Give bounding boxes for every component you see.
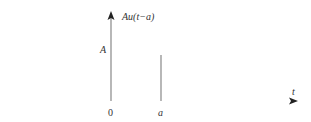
step-function-diagram: Au(t−a) A 0 a t <box>0 0 311 122</box>
function-label: Au(t−a) <box>121 11 155 23</box>
tick-label-origin: 0 <box>108 107 113 118</box>
step-curve <box>161 55 277 101</box>
level-label: A <box>99 44 107 55</box>
t-axis-label: t <box>292 86 295 97</box>
t-axis <box>20 98 298 105</box>
y-axis <box>108 11 115 101</box>
tick-label-a: a <box>158 107 163 118</box>
